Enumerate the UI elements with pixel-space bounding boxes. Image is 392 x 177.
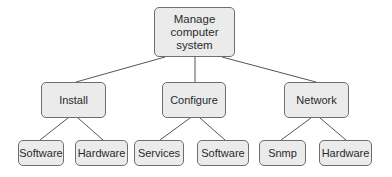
leaf-label: Software	[201, 147, 244, 159]
node-network-hardware: Hardware	[319, 140, 372, 166]
leaf-label: Snmp	[268, 147, 297, 159]
leaf-label: Hardware	[322, 147, 370, 159]
node-install: Install	[41, 82, 106, 118]
node-configure-label: Configure	[170, 94, 218, 106]
node-configure: Configure	[162, 82, 226, 118]
edge-root-install	[76, 57, 165, 82]
node-install-software: Software	[18, 140, 64, 166]
node-configure-services: Services	[134, 140, 184, 166]
leaf-label: Software	[19, 147, 62, 159]
node-network: Network	[284, 82, 349, 118]
node-install-label: Install	[59, 94, 88, 106]
edge-network-snmp	[281, 118, 311, 140]
edge-root-network	[222, 57, 316, 82]
edge-install-software	[40, 118, 68, 140]
leaf-label: Hardware	[78, 147, 126, 159]
node-network-label: Network	[296, 94, 336, 106]
root-line-2: computer	[171, 26, 219, 39]
node-root: Manage computer system	[154, 7, 235, 57]
edge-configure-services	[160, 118, 190, 140]
edge-install-hardware	[78, 118, 103, 140]
node-configure-software: Software	[197, 140, 249, 166]
root-line-3: system	[171, 39, 219, 52]
root-line-1: Manage	[171, 13, 219, 26]
node-network-snmp: Snmp	[259, 140, 306, 166]
edge-network-hardware	[320, 118, 346, 140]
leaf-label: Services	[138, 147, 180, 159]
edge-configure-software	[200, 118, 225, 140]
node-install-hardware: Hardware	[75, 140, 128, 166]
